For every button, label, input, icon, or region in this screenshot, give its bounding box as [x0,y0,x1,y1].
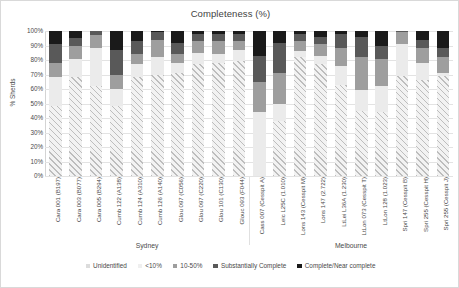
bar-segment [171,43,184,55]
bar-segment [233,41,246,50]
bar-segment [314,37,327,44]
stacked-bar[interactable] [69,31,82,176]
bar-segment [396,32,409,44]
y-axis-tick-label: 30% [19,129,43,135]
bar-segment [212,54,225,63]
stacked-bar[interactable] [335,31,348,176]
x-axis-tick-label: Glou 097 (C220) [198,177,204,222]
x-axis-tick-label: Leic L25C (1.010) [280,177,286,225]
legend-swatch-icon [173,264,178,269]
bar-segment [110,75,123,90]
bar-segment [110,106,123,176]
bar-segment [69,38,82,45]
stacked-bar[interactable] [233,31,246,176]
stacked-bar[interactable] [355,31,368,176]
stacked-bar[interactable] [396,31,409,176]
bar-segment [151,40,164,57]
legend-label: Substantially Complete [221,263,286,269]
bar-segment [69,46,82,59]
x-axis-tick-label: LtLon 073 (Cesspit T) [361,177,367,236]
x-axis-tick-label: Spri 255 (Cesspit J) [443,177,449,231]
legend-label: 10-50% [180,263,202,269]
x-axis-tick-label: Cumb 126 (A140) [157,177,163,225]
bar-segment [110,31,123,50]
bar-segment [335,66,348,85]
legend-label: Unidentified [93,263,127,269]
legend-item[interactable]: 10-50% [173,263,203,269]
bar-segment [273,31,286,43]
bar-segment [49,77,62,106]
bar-segment [416,31,429,40]
bar-segment [151,32,164,39]
bar-slot [372,31,392,176]
bar-segment [355,37,368,57]
bar-segment [294,34,307,41]
legend-item[interactable]: <10% [138,263,162,269]
bar-segment [314,64,327,176]
legend-item[interactable]: Substantially Complete [213,263,286,269]
bar-segment [212,63,225,176]
y-axis-tick-label: 80% [19,57,43,63]
y-axis-tick-label: 100% [19,28,43,34]
x-axis-label-slot: Leic L25C (1.010) [269,177,289,239]
stacked-bar[interactable] [110,31,123,176]
stacked-bar[interactable] [375,31,388,176]
x-axis-tick-label: Cara 003 (B077) [76,177,82,222]
stacked-bar[interactable] [314,31,327,176]
stacked-bar[interactable] [416,31,429,176]
plot-area [45,31,453,176]
bar-segment [233,50,246,62]
x-axis-label-slot: Glouc 093 (F044) [229,177,249,239]
bar-segment [233,61,246,176]
stacked-bar[interactable] [273,31,286,176]
x-axis-tick-label: Cara 005 (B294) [96,177,102,222]
x-axis-tick-label: Lons 143 (Cesspit M) [300,177,306,235]
bar-segment [437,31,450,48]
stacked-bar[interactable] [253,31,266,176]
x-axis-label-slot: Glou 101 (C130) [208,177,228,239]
x-axis-label-slot: Spri 147 (Cesspit B) [392,177,412,239]
legend-item[interactable]: Complete/Near complete [297,263,375,269]
bar-segment [151,75,164,177]
x-axis-label-slot: Lons 143 (Cesspit M) [290,177,310,239]
legend-swatch-icon [86,264,91,269]
stacked-bar[interactable] [90,31,103,176]
bar-segment [273,121,286,176]
stacked-bar[interactable] [131,31,144,176]
bar-segment [49,31,62,44]
stacked-bar[interactable] [171,31,184,176]
bar-segment [416,40,429,49]
bar-segment [69,31,82,38]
bar-slot [351,31,371,176]
group-label: Melbourne [335,242,367,249]
bar-slot [86,31,106,176]
y-axis-tick-label: 10% [19,158,43,164]
bar-segment [110,89,123,106]
stacked-bar[interactable] [437,31,450,176]
bar-segment [314,44,327,56]
bar-slot [392,31,412,176]
y-axis-tick-label: 40% [19,115,43,121]
bar-slot [127,31,147,176]
stacked-bar[interactable] [294,31,307,176]
y-axis-ticks: 0%10%20%30%40%50%60%70%80%90%100% [19,31,43,176]
bar-segment [416,63,429,80]
bar-segment [49,63,62,78]
stacked-bar[interactable] [192,31,205,176]
bar-slot [433,31,453,176]
bar-segment [273,104,286,121]
x-axis-label-slot: LtLei L36A (1.230) [331,177,351,239]
stacked-bar[interactable] [151,31,164,176]
bar-segment [131,41,144,54]
bar-segment [253,31,266,56]
legend-item[interactable]: Unidentified [86,263,127,269]
x-axis-label-slot: Cara 005 (B294) [86,177,106,239]
bar-segment [90,48,103,86]
bar-segment [171,63,184,73]
stacked-bar[interactable] [49,31,62,176]
legend-label: <10% [145,263,162,269]
stacked-bar[interactable] [212,31,225,176]
bar-segment [69,59,82,78]
bar-segment [375,112,388,176]
bar-segment [355,57,368,90]
